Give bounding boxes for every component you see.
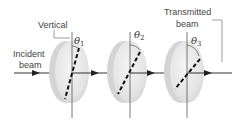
incident-beam (14, 70, 50, 76)
incident-label-line1: Incident (13, 49, 45, 59)
polarizer-diagram: Vertical Incident beam Transmitted beam … (0, 0, 244, 124)
transmitted-label-line1: Transmitted (164, 7, 211, 17)
incident-label-line2: beam (19, 60, 42, 70)
vertical-label: Vertical (38, 20, 68, 30)
vertical-leader-line (54, 30, 70, 38)
polarizer-2 (107, 32, 147, 118)
theta-2-label: θ2 (134, 29, 145, 42)
transmitted-leader-line (212, 20, 222, 62)
transmitted-label-line2: beam (176, 19, 199, 29)
